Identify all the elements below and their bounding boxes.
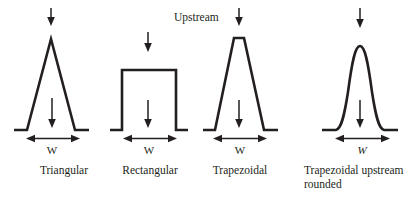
rounded-top-arrow-icon [356, 8, 364, 28]
rectangular-inner-arrow-icon [144, 100, 152, 128]
trapezoidal-profile-path [203, 38, 278, 130]
panel-trapezoidal-upstream-rounded [322, 8, 398, 142]
trapezoidal-top-arrow-icon [235, 8, 243, 26]
width-label-triangular: W [40, 144, 64, 156]
rectangular-top-arrow-icon [144, 32, 152, 52]
caption-triangular: Triangular [22, 164, 106, 178]
triangular-inner-arrow-icon [48, 98, 56, 128]
panel-rectangular [110, 32, 188, 142]
triangular-top-arrow-icon [47, 8, 55, 26]
width-label-trapezoidal-upstream-rounded: W [350, 144, 374, 156]
trapezoidal-width-dimension [213, 135, 267, 142]
rounded-inner-arrow-icon [356, 100, 364, 128]
width-label-trapezoidal: W [228, 144, 252, 156]
panel-trapezoidal [203, 8, 278, 142]
caption-trapezoidal-upstream-rounded: Trapezoidal upstream rounded [304, 164, 416, 191]
panel-triangular [14, 8, 89, 142]
trapezoidal-inner-arrow-icon [235, 100, 243, 128]
caption-trapezoidal: Trapezoidal [198, 164, 282, 178]
caption-rectangular: Rectangular [108, 164, 192, 178]
triangular-width-dimension [26, 135, 80, 142]
rectangular-width-dimension [123, 135, 177, 142]
width-label-rectangular: W [137, 144, 161, 156]
pulse-shape-figure: Upstream W W W W Triangular Rectangular … [0, 0, 416, 199]
upstream-annotation-label: Upstream [174, 11, 219, 23]
rounded-width-dimension [335, 135, 390, 142]
